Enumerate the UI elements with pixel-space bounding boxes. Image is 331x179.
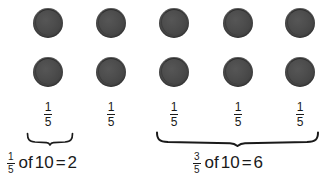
fraction-denominator: 5 bbox=[44, 115, 53, 128]
counter-disc-icon bbox=[159, 57, 189, 87]
caption-word-of: of bbox=[19, 153, 33, 172]
fraction-numerator: 3 bbox=[193, 152, 201, 164]
counter-disc-icon bbox=[96, 57, 126, 87]
fraction-numerator: 1 bbox=[296, 101, 305, 115]
fraction-denominator: 5 bbox=[7, 164, 15, 175]
fraction-numerator: 1 bbox=[170, 101, 179, 115]
fraction: 1 5 bbox=[170, 101, 179, 128]
caption-equals-sign: = bbox=[56, 153, 66, 172]
counter-disc-icon bbox=[33, 57, 63, 87]
fraction: 1 5 bbox=[107, 101, 116, 128]
fraction: 1 5 bbox=[296, 101, 305, 128]
fraction-denominator: 5 bbox=[193, 164, 201, 175]
column-fraction-label-2: 1 5 bbox=[91, 101, 131, 128]
fraction-numerator: 1 bbox=[107, 101, 116, 115]
fraction: 1 5 bbox=[44, 101, 53, 128]
counter-disc-icon bbox=[285, 57, 315, 87]
brace-one-fifth bbox=[26, 132, 74, 146]
column-fraction-label-1: 1 5 bbox=[28, 101, 68, 128]
column-fraction-label-4: 1 5 bbox=[218, 101, 258, 128]
fraction: 1 5 bbox=[234, 101, 243, 128]
column-fraction-label-5: 1 5 bbox=[280, 101, 320, 128]
fraction: 1 5 bbox=[7, 152, 15, 175]
counter-disc-icon bbox=[223, 8, 253, 38]
fraction: 3 5 bbox=[193, 152, 201, 175]
column-fraction-label-3: 1 5 bbox=[154, 101, 194, 128]
fraction-denominator: 5 bbox=[296, 115, 305, 128]
fraction-denominator: 5 bbox=[107, 115, 116, 128]
caption-one-fifth: 1 5 of10=2 bbox=[7, 152, 77, 175]
caption-result: 6 bbox=[254, 153, 263, 172]
caption-total: 10 bbox=[35, 153, 54, 172]
counter-disc-icon bbox=[285, 8, 315, 38]
caption-total: 10 bbox=[221, 153, 240, 172]
fraction-numerator: 1 bbox=[7, 152, 15, 164]
counter-disc-icon bbox=[33, 8, 63, 38]
brace-three-fifths bbox=[155, 131, 323, 147]
fraction-numerator: 1 bbox=[44, 101, 53, 115]
caption-equals-sign: = bbox=[242, 153, 252, 172]
fraction-denominator: 5 bbox=[170, 115, 179, 128]
fraction-denominator: 5 bbox=[234, 115, 243, 128]
counter-disc-icon bbox=[96, 8, 126, 38]
caption-result: 2 bbox=[68, 153, 77, 172]
fraction-numerator: 1 bbox=[234, 101, 243, 115]
caption-word-of: of bbox=[205, 153, 219, 172]
fraction-of-a-set-figure: 1 5 1 5 1 5 1 5 1 5 bbox=[0, 0, 331, 179]
caption-three-fifths: 3 5 of10=6 bbox=[193, 152, 263, 175]
counter-disc-icon bbox=[223, 57, 253, 87]
counter-disc-icon bbox=[159, 8, 189, 38]
